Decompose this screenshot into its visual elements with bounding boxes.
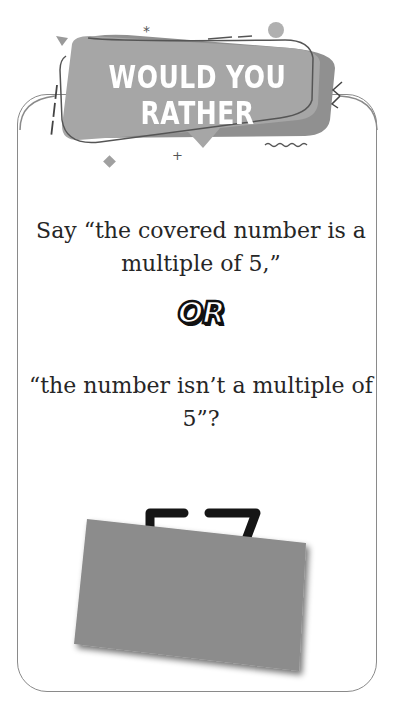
number-cover-card bbox=[74, 519, 306, 671]
left-curve bbox=[20, 96, 55, 130]
banner-title: WOULD YOU RATHER bbox=[85, 59, 310, 132]
diamond-icon bbox=[103, 155, 116, 168]
option-a-text: Say “the covered number is a multiple of… bbox=[20, 214, 382, 280]
triangle-icon bbox=[56, 36, 68, 46]
option-b-text: “the number isn’t a multiple of 5”? bbox=[20, 369, 382, 435]
dash-line-1 bbox=[208, 37, 232, 39]
zigzag-icon bbox=[332, 82, 342, 108]
right-curve bbox=[340, 96, 377, 130]
asterisk-icon: * bbox=[143, 23, 150, 39]
covered-number-area bbox=[0, 480, 402, 701]
dash-line-left bbox=[51, 85, 57, 138]
circle-icon bbox=[268, 22, 284, 38]
dash-line-2 bbox=[238, 36, 252, 37]
wave-icon bbox=[265, 144, 307, 147]
plus-icon: + bbox=[172, 148, 183, 163]
or-connector: OR bbox=[151, 295, 251, 330]
